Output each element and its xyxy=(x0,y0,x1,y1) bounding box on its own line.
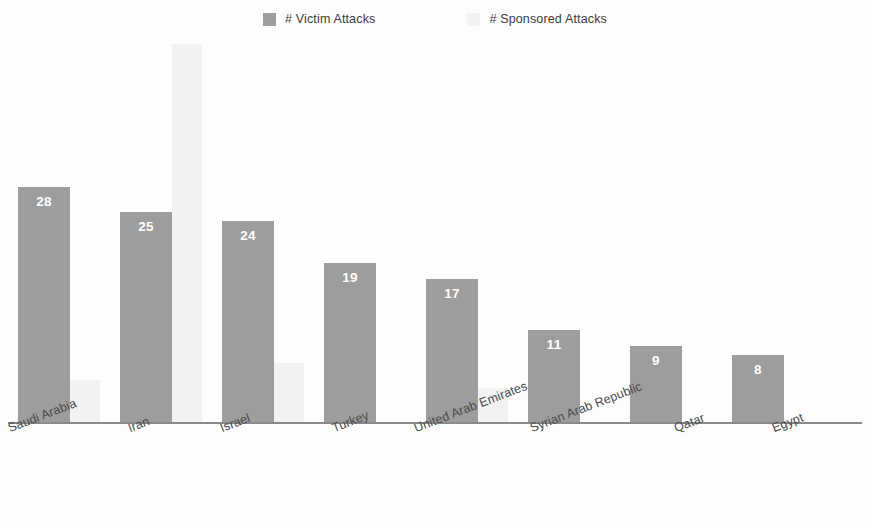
bar-group: 28 xyxy=(18,36,100,422)
bar-group: 25 xyxy=(120,36,202,422)
bar-value-label: 28 xyxy=(18,194,70,209)
bar-value-label: 17 xyxy=(426,286,478,301)
legend-swatch-sponsored-icon xyxy=(467,13,480,26)
bar-sponsored-attacks[interactable] xyxy=(274,363,304,422)
x-axis-tick-labels: Saudi ArabiaIranIsraelTurkeyUnited Arab … xyxy=(0,422,870,526)
bar-value-label: 25 xyxy=(120,219,172,234)
bar-victim-attacks[interactable]: 8 xyxy=(732,355,784,422)
bar-value-label: 9 xyxy=(630,353,682,368)
bar-chart: # Victim Attacks # Sponsored Attacks 282… xyxy=(0,0,870,526)
legend-swatch-victim-icon xyxy=(263,13,276,26)
bar-group: 8 xyxy=(732,36,814,422)
bar-group: 24 xyxy=(222,36,304,422)
plot-area: 28252419171198 xyxy=(0,36,870,422)
legend-item-victim-attacks[interactable]: # Victim Attacks xyxy=(263,12,375,26)
bar-victim-attacks[interactable]: 28 xyxy=(18,187,70,422)
bar-group: 19 xyxy=(324,36,406,422)
bar-victim-attacks[interactable]: 25 xyxy=(120,212,172,422)
bar-group: 9 xyxy=(630,36,712,422)
legend-item-sponsored-attacks[interactable]: # Sponsored Attacks xyxy=(467,12,607,26)
bar-sponsored-attacks[interactable] xyxy=(172,44,202,422)
bar-value-label: 8 xyxy=(732,362,784,377)
bar-value-label: 11 xyxy=(528,337,580,352)
legend-label-victim-attacks: # Victim Attacks xyxy=(285,12,375,26)
bar-victim-attacks[interactable]: 19 xyxy=(324,263,376,422)
legend-label-sponsored-attacks: # Sponsored Attacks xyxy=(489,12,607,26)
bar-victim-attacks[interactable]: 24 xyxy=(222,221,274,422)
bar-value-label: 19 xyxy=(324,270,376,285)
bar-value-label: 24 xyxy=(222,228,274,243)
bar-group: 17 xyxy=(426,36,508,422)
chart-legend: # Victim Attacks # Sponsored Attacks xyxy=(0,12,870,26)
bar-group: 11 xyxy=(528,36,610,422)
